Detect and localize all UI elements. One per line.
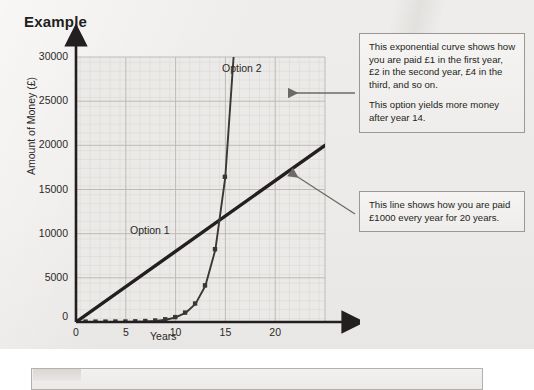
y-tick-25000: 25000 [39, 94, 68, 106]
exponential-curve-callout: This exponential curve shows how you are… [359, 33, 525, 133]
y-tick-0: 0 [62, 310, 68, 322]
y-tick-5000: 5000 [45, 271, 68, 283]
x-axis-label: Years [150, 330, 176, 342]
x-tick-5: 5 [114, 326, 138, 338]
series-label-option-1: Option 1 [130, 224, 170, 236]
y-tick-30000: 30000 [39, 50, 68, 62]
linear-line-callout: This line shows how you are paid £1000 e… [359, 191, 525, 232]
series-label-option-2: Option 2 [222, 62, 262, 74]
next-section-box-partial [31, 368, 483, 390]
next-section-box-tab [33, 369, 81, 381]
y-tick-20000: 20000 [39, 138, 68, 150]
x-tick-0: 0 [64, 326, 88, 338]
x-tick-15: 15 [213, 326, 237, 338]
callout-1-paragraph-1: This exponential curve shows how you are… [369, 41, 516, 91]
x-tick-20: 20 [263, 326, 287, 338]
y-axis-label: Amount of Money (£) [25, 31, 37, 221]
callout-1-paragraph-2: This option yields more money after year… [369, 99, 516, 124]
y-tick-15000: 15000 [39, 183, 68, 195]
y-tick-10000: 10000 [39, 227, 68, 239]
callout-2-paragraph-1: This line shows how you are paid £1000 e… [369, 199, 516, 224]
chart-figure: 0 5000 10000 15000 20000 25000 30000 0 5… [0, 0, 360, 349]
